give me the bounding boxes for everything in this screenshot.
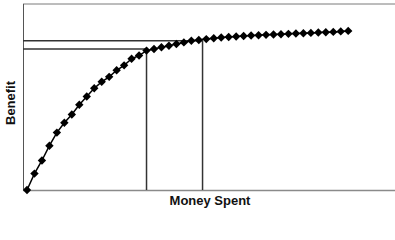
- diamond-marker: [337, 27, 345, 35]
- diamond-marker: [277, 30, 285, 38]
- diamond-marker: [142, 46, 150, 54]
- diamond-marker: [202, 35, 210, 43]
- diamond-marker: [314, 28, 322, 36]
- diamond-marker: [217, 33, 225, 41]
- y-axis-label: Benefit: [3, 81, 17, 125]
- diamond-marker: [247, 31, 255, 39]
- diamond-marker: [299, 29, 307, 37]
- diamond-marker: [292, 29, 300, 37]
- diamond-marker: [45, 142, 53, 150]
- diamond-marker: [284, 30, 292, 38]
- diamond-marker: [38, 156, 46, 164]
- diamond-marker: [195, 36, 203, 44]
- diamond-marker: [224, 33, 232, 41]
- diamond-marker: [322, 28, 330, 36]
- diamond-marker: [187, 37, 195, 45]
- diamond-marker: [269, 30, 277, 38]
- diamond-marker: [150, 45, 158, 53]
- diamond-marker: [135, 51, 143, 59]
- diamond-marker: [307, 29, 315, 37]
- x-axis-label: Money Spent: [160, 193, 260, 208]
- diamond-marker: [30, 169, 38, 177]
- diamond-marker: [262, 31, 270, 39]
- series-line: [27, 31, 348, 190]
- benefit-series: [23, 27, 353, 194]
- diamond-marker: [165, 41, 173, 49]
- diamond-marker: [157, 43, 165, 51]
- diamond-marker: [232, 32, 240, 40]
- diamond-marker: [329, 28, 337, 36]
- diamond-marker: [254, 31, 262, 39]
- diamond-marker: [210, 34, 218, 42]
- diamond-marker: [344, 27, 352, 35]
- reference-lines: [23, 41, 203, 190]
- diamond-marker: [180, 38, 188, 46]
- diamond-marker: [23, 186, 31, 194]
- diamond-marker: [239, 32, 247, 40]
